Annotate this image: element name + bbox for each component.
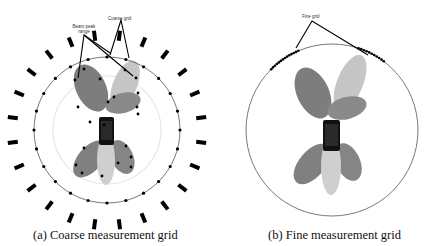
callout-lines-b: [296, 21, 368, 55]
measurement-grid-diagram: [0, 0, 436, 246]
caption-a: (a) Coarse measurement grid: [33, 228, 178, 243]
beam-peak-range-text: range: [78, 29, 90, 34]
coarse-grid-label: Coarse grid: [108, 16, 131, 21]
panel-a-coarse-grid: [8, 20, 207, 229]
beam-peak-range-label: Beam peak range: [72, 24, 96, 34]
fine-grid-points: [270, 47, 385, 71]
panel-b-fine-grid: [246, 21, 418, 216]
fine-grid-label: Fine grid: [302, 14, 320, 19]
phone-device-a: [99, 117, 114, 145]
phone-device-b: [323, 120, 340, 151]
caption-b: (b) Fine measurement grid: [268, 228, 401, 243]
